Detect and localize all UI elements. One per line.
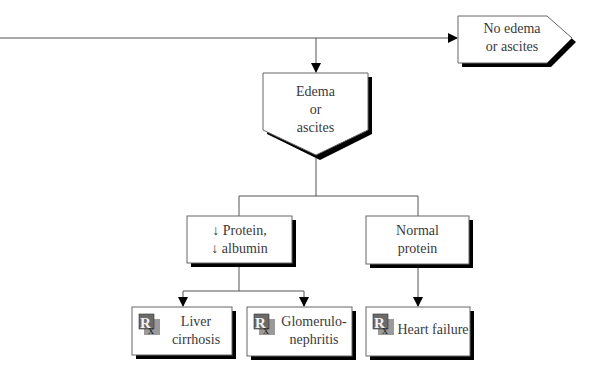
node-line: or [263, 101, 368, 119]
node-line: nephritis [274, 331, 354, 349]
node-heart: Heart failure [396, 321, 470, 339]
node-line: ↓ Protein, [187, 222, 292, 240]
node-line: No edema [462, 20, 562, 38]
node-line: Normal [366, 222, 469, 240]
node-line: Glomerulo- [274, 313, 354, 331]
node-line: protein [366, 240, 469, 258]
node-glomerulo: Glomerulo- nephritis [274, 313, 354, 349]
node-line: ↓ albumin [187, 240, 292, 258]
svg-text:x: x [263, 323, 269, 337]
node-normal-protein: Normal protein [366, 222, 469, 258]
node-low-protein: ↓ Protein, ↓ albumin [187, 222, 292, 258]
svg-text:x: x [148, 323, 154, 337]
node-no-edema: No edema or ascites [462, 20, 562, 56]
node-line: or ascites [462, 38, 562, 56]
svg-text:x: x [382, 323, 388, 337]
node-line: Heart failure [396, 321, 470, 339]
node-line: ascites [263, 119, 368, 137]
node-line: Liver [160, 313, 232, 331]
node-edema: Edema or ascites [263, 83, 368, 137]
node-line: cirrhosis [160, 331, 232, 349]
node-liver: Liver cirrhosis [160, 313, 232, 349]
node-line: Edema [263, 83, 368, 101]
